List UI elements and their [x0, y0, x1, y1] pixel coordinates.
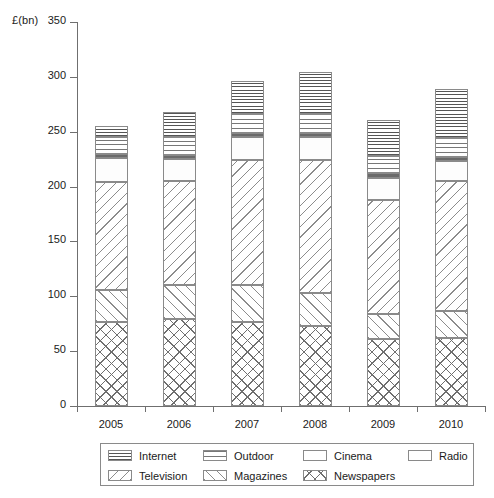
y-axis-tick-label: 150 [48, 233, 66, 245]
bar-segment-radio-2007[interactable] [231, 137, 264, 160]
bar-segment-radio-2005[interactable] [95, 158, 128, 182]
bar-segment-television-2008[interactable] [299, 160, 332, 293]
legend-label: Internet [139, 450, 176, 462]
bar-segment-newspapers-2007[interactable] [231, 322, 264, 406]
legend-row: InternetOutdoorCinemaRadio [101, 445, 473, 466]
y-axis-tick-label: 100 [48, 288, 66, 300]
bar-segment-cinema-2007[interactable] [231, 133, 264, 137]
bar-segment-magazines-2009[interactable] [367, 314, 400, 339]
y-axis-tick-label: 250 [48, 124, 66, 136]
legend-swatch-outdoor [203, 450, 227, 461]
bar-segment-television-2007[interactable] [231, 160, 264, 285]
x-axis-category-label: 2007 [217, 418, 277, 430]
legend-item-radio[interactable]: Radio [408, 445, 473, 466]
bar-segment-outdoor-2010[interactable] [435, 138, 468, 157]
bar-segment-television-2010[interactable] [435, 181, 468, 310]
bar-segment-newspapers-2009[interactable] [367, 339, 400, 406]
bar-2010[interactable] [435, 22, 468, 406]
x-axis-tick [485, 406, 486, 412]
y-axis-tick-label: 200 [48, 179, 66, 191]
y-axis-tick: 0 [70, 406, 77, 407]
x-axis-category-label: 2008 [285, 418, 345, 430]
bar-2007[interactable] [231, 22, 264, 406]
bar-segment-radio-2006[interactable] [163, 159, 196, 181]
x-axis-category-label: 2009 [353, 418, 413, 430]
bar-segment-radio-2010[interactable] [435, 161, 468, 181]
x-axis-tick [417, 406, 418, 412]
x-axis-tick [281, 406, 282, 412]
y-axis-tick-label: 300 [48, 69, 66, 81]
bar-2009[interactable] [367, 22, 400, 406]
bar-segment-outdoor-2007[interactable] [231, 114, 264, 133]
x-axis-tick [77, 406, 78, 412]
bar-segment-cinema-2005[interactable] [95, 154, 128, 158]
bar-segment-outdoor-2006[interactable] [163, 137, 196, 155]
legend-swatch-radio [408, 450, 432, 461]
bar-segment-cinema-2008[interactable] [299, 133, 332, 137]
bar-segment-internet-2010[interactable] [435, 89, 468, 138]
legend-label: Cinema [334, 450, 372, 462]
bar-segment-newspapers-2010[interactable] [435, 338, 468, 406]
legend-row: TelevisionMagazinesNewspapers [101, 465, 473, 486]
bar-segment-internet-2009[interactable] [367, 120, 400, 156]
legend-label: Outdoor [234, 450, 274, 462]
y-axis-tick: 300 [70, 77, 77, 78]
bar-segment-radio-2009[interactable] [367, 178, 400, 200]
bar-segment-internet-2007[interactable] [231, 81, 264, 114]
legend-swatch-television [108, 470, 132, 481]
bar-segment-internet-2006[interactable] [163, 112, 196, 137]
bar-segment-radio-2008[interactable] [299, 137, 332, 160]
chart-legend: InternetOutdoorCinemaRadio TelevisionMag… [100, 443, 474, 486]
bar-segment-outdoor-2009[interactable] [367, 156, 400, 174]
y-axis-tick-label: 50 [54, 343, 66, 355]
bar-segment-magazines-2010[interactable] [435, 311, 468, 338]
x-axis-tick [349, 406, 350, 412]
bar-segment-cinema-2010[interactable] [435, 157, 468, 161]
y-axis-tick: 350 [70, 22, 77, 23]
legend-label: Magazines [234, 470, 287, 482]
x-axis-category-label: 2005 [81, 418, 141, 430]
bar-segment-outdoor-2008[interactable] [299, 114, 332, 133]
bar-segment-magazines-2007[interactable] [231, 285, 264, 321]
legend-item-cinema[interactable]: Cinema [303, 445, 408, 466]
y-axis-tick-label: 350 [48, 14, 66, 26]
bar-segment-outdoor-2005[interactable] [95, 137, 128, 153]
bar-segment-newspapers-2005[interactable] [95, 322, 128, 406]
y-axis-tick: 250 [70, 132, 77, 133]
bar-segment-television-2006[interactable] [163, 181, 196, 285]
legend-label: Newspapers [334, 470, 395, 482]
bar-segment-internet-2005[interactable] [95, 126, 128, 137]
bar-2008[interactable] [299, 22, 332, 406]
bar-segment-internet-2008[interactable] [299, 72, 332, 114]
x-axis-tick [213, 406, 214, 412]
legend-item-television[interactable]: Television [101, 465, 203, 486]
legend-swatch-internet [108, 450, 132, 461]
y-axis-title: £(bn) [12, 14, 38, 26]
bar-segment-television-2009[interactable] [367, 200, 400, 314]
bar-2005[interactable] [95, 22, 128, 406]
y-axis-tick: 50 [70, 351, 77, 352]
bar-2006[interactable] [163, 22, 196, 406]
legend-label: Television [139, 470, 187, 482]
bar-segment-magazines-2008[interactable] [299, 293, 332, 326]
bar-segment-cinema-2006[interactable] [163, 155, 196, 159]
x-axis-category-label: 2010 [421, 418, 481, 430]
bar-segment-magazines-2005[interactable] [95, 290, 128, 322]
legend-item-magazines[interactable]: Magazines [203, 465, 303, 486]
stacked-bar-chart: £(bn) 050100150200250300350 200520062007… [0, 0, 494, 498]
y-axis-tick: 150 [70, 241, 77, 242]
legend-swatch-newspapers [303, 470, 327, 481]
y-axis-tick: 100 [70, 296, 77, 297]
legend-swatch-cinema [303, 450, 327, 461]
legend-item-newspapers[interactable]: Newspapers [303, 465, 408, 486]
bar-segment-television-2005[interactable] [95, 182, 128, 290]
bar-segment-cinema-2009[interactable] [367, 173, 400, 177]
bar-segment-newspapers-2008[interactable] [299, 326, 332, 406]
x-axis-category-label: 2006 [149, 418, 209, 430]
legend-item-outdoor[interactable]: Outdoor [203, 445, 303, 466]
legend-item-internet[interactable]: Internet [101, 445, 203, 466]
bar-segment-magazines-2006[interactable] [163, 285, 196, 319]
bar-segment-newspapers-2006[interactable] [163, 319, 196, 406]
y-axis-tick-label: 0 [60, 398, 66, 410]
legend-swatch-magazines [203, 470, 227, 481]
